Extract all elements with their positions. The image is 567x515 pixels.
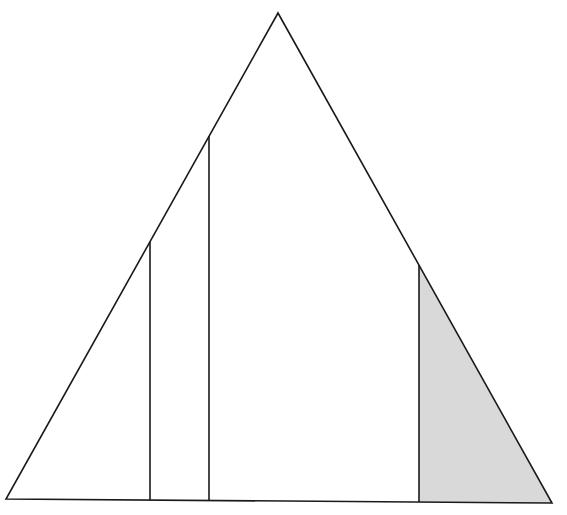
triangle-diagram [0,0,567,515]
